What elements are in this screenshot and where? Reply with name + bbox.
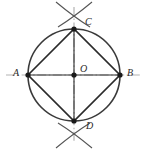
point-O xyxy=(71,72,76,77)
vertex-label-a: A xyxy=(13,68,19,78)
geometry-canvas xyxy=(0,0,147,151)
vertex-label-d: D xyxy=(86,121,93,131)
geometric-construction-figure: A B C D O xyxy=(0,0,147,151)
vertex-label-b: B xyxy=(127,68,133,78)
vertex-label-c: C xyxy=(85,17,92,27)
point-C xyxy=(71,26,76,31)
bottom-construction-arc-left xyxy=(56,123,90,148)
point-D xyxy=(71,118,76,123)
point-A xyxy=(25,72,30,77)
center-label-o: O xyxy=(80,64,87,74)
point-B xyxy=(117,72,122,77)
